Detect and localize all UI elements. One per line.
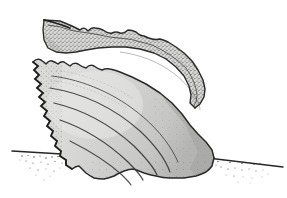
illustration-canvas: Bivalve shell in life position on sedime… [0,0,287,198]
bivalve-shell-illustration [0,0,287,198]
